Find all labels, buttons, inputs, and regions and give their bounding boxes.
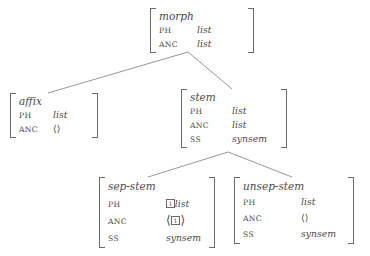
node-sep-stem-row-anc: ANC ⟨1⟩ bbox=[108, 214, 206, 228]
node-morph-type: morph bbox=[159, 10, 245, 23]
attr-anc: ANC bbox=[190, 119, 232, 132]
edge-stem-sep-stem bbox=[148, 152, 228, 177]
node-stem-row-ss: SS synsem bbox=[190, 132, 278, 146]
edge-morph-affix bbox=[48, 52, 188, 93]
attr-ss: SS bbox=[243, 228, 301, 241]
type-hierarchy-diagram: morph PH list ANC list affix PH list ANC… bbox=[0, 0, 370, 256]
value-anc: list bbox=[197, 37, 245, 50]
node-stem-type: stem bbox=[190, 91, 278, 104]
node-stem-row-ph: PH list bbox=[190, 104, 278, 118]
value-anc: list bbox=[232, 118, 278, 131]
node-morph-row-ph: PH list bbox=[159, 23, 245, 37]
value-ss: synsem bbox=[166, 231, 206, 244]
value-ph-tagged: 1list bbox=[166, 195, 206, 210]
attr-ph: PH bbox=[243, 196, 301, 209]
node-stem-row-anc: ANC list bbox=[190, 118, 278, 132]
attr-ph: PH bbox=[19, 109, 53, 122]
node-unsep-stem-row-ph: PH list bbox=[243, 195, 345, 209]
structure-share-tag: 1 bbox=[171, 216, 180, 225]
node-sep-stem-row-ss: SS synsem bbox=[108, 231, 206, 245]
attr-ss: SS bbox=[108, 232, 166, 245]
node-morph-row-anc: ANC list bbox=[159, 37, 245, 51]
attr-ph: PH bbox=[108, 198, 166, 211]
edge-stem-unsep-stem bbox=[228, 152, 292, 177]
bracket-right bbox=[281, 89, 287, 148]
attr-anc: ANC bbox=[243, 212, 301, 225]
edge-morph-stem bbox=[188, 52, 232, 89]
value-anc-tagged-list: ⟨1⟩ bbox=[166, 214, 206, 227]
value-ph: list bbox=[232, 104, 278, 117]
node-affix-type: affix bbox=[19, 95, 89, 108]
bracket-right bbox=[209, 177, 215, 248]
node-affix: affix PH list ANC ⟨⟩ bbox=[10, 93, 98, 138]
value-ph: list bbox=[301, 195, 345, 208]
value-anc-empty-list: ⟨⟩ bbox=[301, 211, 345, 224]
bracket-right bbox=[348, 177, 354, 244]
node-stem: stem PH list ANC list SS synsem bbox=[181, 89, 287, 148]
value-ph: list bbox=[175, 198, 189, 209]
node-unsep-stem-type: unsep-stem bbox=[243, 180, 345, 193]
node-sep-stem: sep-stem PH 1list ANC ⟨1⟩ SS synsem bbox=[99, 177, 215, 248]
attr-ph: PH bbox=[159, 24, 197, 37]
value-anc-empty-list: ⟨⟩ bbox=[53, 122, 89, 135]
node-unsep-stem-body: unsep-stem PH list ANC ⟨⟩ SS synsem bbox=[240, 177, 348, 244]
angle-bracket-close: ⟩ bbox=[180, 214, 185, 227]
attr-anc: ANC bbox=[159, 38, 197, 51]
node-morph-body: morph PH list ANC list bbox=[156, 8, 248, 53]
structure-share-tag: 1 bbox=[166, 199, 175, 208]
attr-anc: ANC bbox=[108, 215, 166, 228]
node-sep-stem-body: sep-stem PH 1list ANC ⟨1⟩ SS synsem bbox=[105, 177, 209, 248]
value-ph: list bbox=[197, 23, 245, 36]
node-affix-body: affix PH list ANC ⟨⟩ bbox=[16, 93, 92, 138]
attr-ss: SS bbox=[190, 133, 232, 146]
node-stem-body: stem PH list ANC list SS synsem bbox=[187, 89, 281, 148]
node-unsep-stem-row-anc: ANC ⟨⟩ bbox=[243, 211, 345, 225]
node-sep-stem-row-ph: PH 1list bbox=[108, 195, 206, 211]
node-morph: morph PH list ANC list bbox=[150, 8, 254, 53]
bracket-right bbox=[92, 93, 98, 138]
attr-anc: ANC bbox=[19, 123, 53, 136]
node-unsep-stem: unsep-stem PH list ANC ⟨⟩ SS synsem bbox=[234, 177, 354, 244]
angle-bracket-open: ⟨ bbox=[166, 214, 171, 227]
node-affix-row-anc: ANC ⟨⟩ bbox=[19, 122, 89, 136]
attr-ph: PH bbox=[190, 105, 232, 118]
value-ph: list bbox=[53, 108, 89, 121]
bracket-right bbox=[248, 8, 254, 53]
value-ss: synsem bbox=[232, 132, 278, 145]
value-ss: synsem bbox=[301, 227, 345, 240]
node-affix-row-ph: PH list bbox=[19, 108, 89, 122]
node-sep-stem-type: sep-stem bbox=[108, 180, 206, 193]
node-unsep-stem-row-ss: SS synsem bbox=[243, 227, 345, 241]
